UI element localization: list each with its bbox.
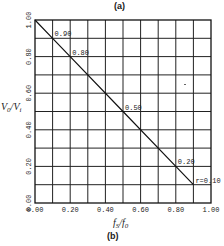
- x-axis-label: fS/f0: [113, 217, 129, 230]
- x-tick-label: 0.40: [97, 206, 114, 214]
- annotation-label: 0.20: [178, 158, 195, 166]
- x-tick-label: 1.00: [203, 206, 220, 214]
- x-tick-label: 0.80: [167, 206, 184, 214]
- data-line: [35, 20, 193, 185]
- y-tick-label: 0.80: [25, 48, 33, 65]
- y-axis-ticks: 0.000.200.400.600.801.00: [25, 12, 33, 212]
- x-axis-ticks: 0.000.200.400.600.801.00: [27, 206, 220, 214]
- x-tick-label: 0.20: [62, 206, 79, 214]
- y-tick-label: 0.20: [25, 158, 33, 175]
- y-tick-label: 0.00: [25, 195, 33, 212]
- y-tick-label: 0.60: [25, 85, 33, 102]
- y-axis-label: V0/Vi: [1, 101, 22, 114]
- annotation-label: 0.90: [55, 30, 72, 38]
- annotation-label: 0.80: [72, 49, 89, 57]
- stray-mark: [184, 84, 186, 85]
- point-annotations: 0.900.800.500.20r=0.10: [55, 30, 221, 184]
- line-chart: 0.000.200.400.600.801.00 0.000.200.400.6…: [0, 0, 224, 246]
- panel-label-b: (b): [107, 231, 119, 241]
- y-tick-label: 1.00: [25, 12, 33, 29]
- x-tick-label: 0.60: [132, 206, 149, 214]
- y-tick-label: 0.40: [25, 121, 33, 138]
- annotation-label: r=0.10: [195, 177, 220, 185]
- annotation-label: 0.50: [125, 104, 142, 112]
